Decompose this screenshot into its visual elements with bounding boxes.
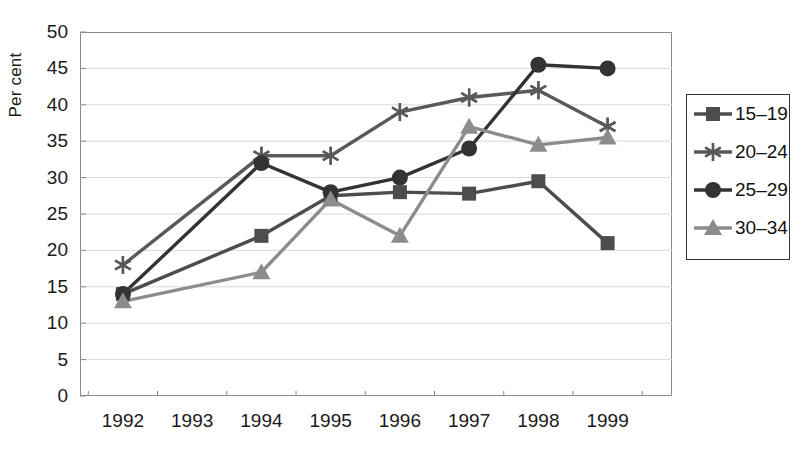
legend-item-label: 20–24 (735, 141, 788, 163)
asterisk-marker-icon (692, 140, 734, 164)
legend: 15–1920–2425–2930–34 (686, 94, 790, 260)
legend-item-20–24[interactable]: 20–24 (687, 133, 789, 171)
square-marker-icon (692, 102, 734, 126)
data-point-square (531, 174, 545, 188)
legend-item-label: 15–19 (735, 103, 788, 125)
chart-canvas (0, 0, 801, 450)
data-point-square (254, 229, 268, 243)
series-line (123, 181, 608, 294)
series-15–19 (123, 181, 608, 294)
legend-item-25–29[interactable]: 25–29 (687, 171, 789, 209)
data-point-circle (530, 57, 546, 73)
legend-item-label: 25–29 (735, 179, 788, 201)
data-point-triangle (460, 118, 478, 134)
data-point-square (393, 185, 407, 199)
data-point-circle (705, 182, 721, 198)
data-point-circle (392, 170, 408, 186)
data-point-square (462, 187, 476, 201)
data-point-circle (461, 140, 477, 156)
triangle-marker-icon (692, 216, 734, 240)
legend-item-label: 30–34 (735, 217, 788, 239)
chart-figure: Per cent 05101520253035404550 1992199319… (0, 0, 801, 450)
legend-item-15–19[interactable]: 15–19 (687, 95, 789, 133)
legend-item-30–34[interactable]: 30–34 (687, 209, 789, 247)
data-point-triangle (391, 227, 409, 243)
data-point-circle (600, 60, 616, 76)
circle-marker-icon (692, 178, 734, 202)
data-point-square (706, 107, 720, 121)
data-point-circle (253, 155, 269, 171)
data-point-square (601, 236, 615, 250)
